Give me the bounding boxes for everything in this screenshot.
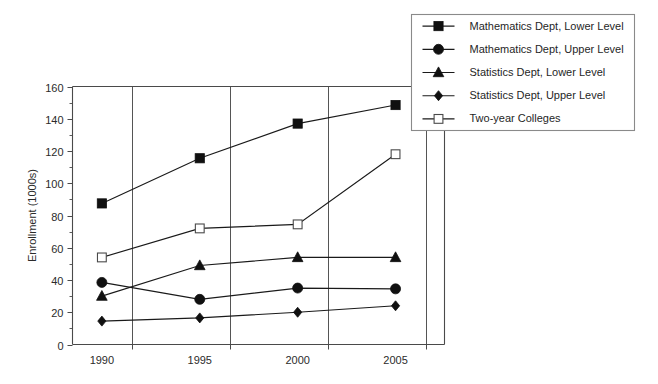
- legend-label-statistics-dept-upper-level: Statistics Dept, Upper Level: [470, 89, 606, 101]
- datapoint-mathematics-dept-upper-level-1995: [195, 294, 205, 304]
- datapoint-mathematics-dept-lower-level-2005: [391, 100, 400, 109]
- datapoint-statistics-dept-upper-level-1990-glyph: [98, 316, 106, 326]
- datapoint-mathematics-dept-upper-level-2000-glyph: [293, 283, 303, 293]
- legend-marker-mathematics-dept-upper-level: [434, 44, 444, 54]
- y-tick-label-120: 120: [45, 146, 63, 158]
- datapoint-mathematics-dept-upper-level-1990: [97, 277, 107, 287]
- series-mathematics-dept-upper-level: [97, 277, 401, 304]
- x-axis-ticks: 1990199520002005: [90, 345, 427, 366]
- y-tick-label-80: 80: [51, 211, 63, 223]
- datapoint-mathematics-dept-upper-level-1995-glyph: [195, 294, 205, 304]
- datapoint-two-year-colleges-1990-glyph: [97, 253, 106, 262]
- chart-legend: Mathematics Dept, Lower LevelMathematics…: [412, 15, 635, 131]
- datapoint-statistics-dept-upper-level-2005-glyph: [391, 301, 399, 311]
- datapoint-statistics-dept-lower-level-2005-glyph: [390, 252, 401, 262]
- x-tick-label-1995: 1995: [188, 354, 212, 366]
- datapoint-mathematics-dept-lower-level-1990: [97, 199, 106, 208]
- vertical-gridlines: [133, 87, 427, 345]
- datapoint-statistics-dept-upper-level-2000-glyph: [294, 307, 302, 317]
- datapoint-two-year-colleges-2000-glyph: [293, 220, 302, 229]
- legend-label-statistics-dept-lower-level: Statistics Dept, Lower Level: [470, 66, 606, 78]
- legend-marker-two-year-colleges-glyph: [434, 115, 443, 124]
- datapoint-two-year-colleges-1995: [195, 224, 204, 233]
- series-mathematics-dept-lower-level: [97, 100, 400, 208]
- enrollment-line-chart: 020406080100120140160 1990199520002005 E…: [0, 0, 658, 384]
- datapoint-mathematics-dept-lower-level-2000-glyph: [293, 119, 302, 128]
- legend-marker-mathematics-dept-upper-level-glyph: [434, 44, 444, 54]
- datapoint-mathematics-dept-upper-level-2000: [293, 283, 303, 293]
- legend-marker-mathematics-dept-lower-level: [434, 22, 443, 31]
- datapoint-two-year-colleges-2005: [391, 150, 400, 159]
- y-tick-label-0: 0: [57, 340, 63, 352]
- datapoint-two-year-colleges-2000: [293, 220, 302, 229]
- chart-canvas: 020406080100120140160 1990199520002005 E…: [0, 0, 658, 384]
- x-tick-label-1990: 1990: [90, 354, 114, 366]
- datapoint-statistics-dept-upper-level-1995: [196, 313, 204, 323]
- series-line-statistics-dept-upper-level: [102, 306, 396, 321]
- data-series-group: [97, 100, 401, 326]
- legend-marker-mathematics-dept-lower-level-glyph: [434, 22, 443, 31]
- series-line-two-year-colleges: [102, 154, 396, 257]
- y-tick-label-140: 140: [45, 114, 63, 126]
- datapoint-mathematics-dept-lower-level-1990-glyph: [97, 199, 106, 208]
- datapoint-statistics-dept-lower-level-2005: [390, 252, 401, 262]
- datapoint-statistics-dept-lower-level-2000-glyph: [292, 252, 303, 262]
- datapoint-mathematics-dept-lower-level-1995: [195, 154, 204, 163]
- datapoint-two-year-colleges-1995-glyph: [195, 224, 204, 233]
- datapoint-statistics-dept-upper-level-1995-glyph: [196, 313, 204, 323]
- series-two-year-colleges: [97, 150, 399, 262]
- datapoint-two-year-colleges-1990: [97, 253, 106, 262]
- datapoint-statistics-dept-upper-level-2000: [294, 307, 302, 317]
- y-axis-ticks: 020406080100120140160: [45, 82, 72, 352]
- y-tick-label-20: 20: [51, 307, 63, 319]
- legend-item-two-year-colleges[interactable]: Two-year Colleges: [423, 112, 562, 124]
- series-line-mathematics-dept-upper-level: [102, 282, 396, 299]
- y-axis-title: Enrollment (1000s): [26, 169, 38, 262]
- datapoint-mathematics-dept-lower-level-2000: [293, 119, 302, 128]
- series-statistics-dept-lower-level: [97, 252, 401, 301]
- y-tick-label-100: 100: [45, 178, 63, 190]
- datapoint-statistics-dept-upper-level-1990: [98, 316, 106, 326]
- datapoint-mathematics-dept-lower-level-2005-glyph: [391, 100, 400, 109]
- datapoint-two-year-colleges-2005-glyph: [391, 150, 400, 159]
- datapoint-mathematics-dept-lower-level-1995-glyph: [195, 154, 204, 163]
- legend-marker-two-year-colleges: [434, 115, 443, 124]
- y-tick-label-160: 160: [45, 82, 63, 94]
- datapoint-mathematics-dept-upper-level-2005: [391, 284, 401, 294]
- legend-label-mathematics-dept-lower-level: Mathematics Dept, Lower Level: [470, 20, 624, 32]
- datapoint-statistics-dept-lower-level-2000: [292, 252, 303, 262]
- x-tick-label-2005: 2005: [383, 354, 407, 366]
- plot-area: 020406080100120140160 1990199520002005 E…: [26, 82, 445, 366]
- legend-label-mathematics-dept-upper-level: Mathematics Dept, Upper Level: [470, 43, 624, 55]
- series-line-mathematics-dept-lower-level: [102, 105, 396, 203]
- datapoint-mathematics-dept-upper-level-2005-glyph: [391, 284, 401, 294]
- series-statistics-dept-upper-level: [98, 301, 400, 326]
- y-tick-label-60: 60: [51, 243, 63, 255]
- datapoint-mathematics-dept-upper-level-1990-glyph: [97, 277, 107, 287]
- legend-label-two-year-colleges: Two-year Colleges: [470, 112, 562, 124]
- datapoint-statistics-dept-upper-level-2005: [391, 301, 399, 311]
- y-tick-label-40: 40: [51, 275, 63, 287]
- x-tick-label-2000: 2000: [285, 354, 309, 366]
